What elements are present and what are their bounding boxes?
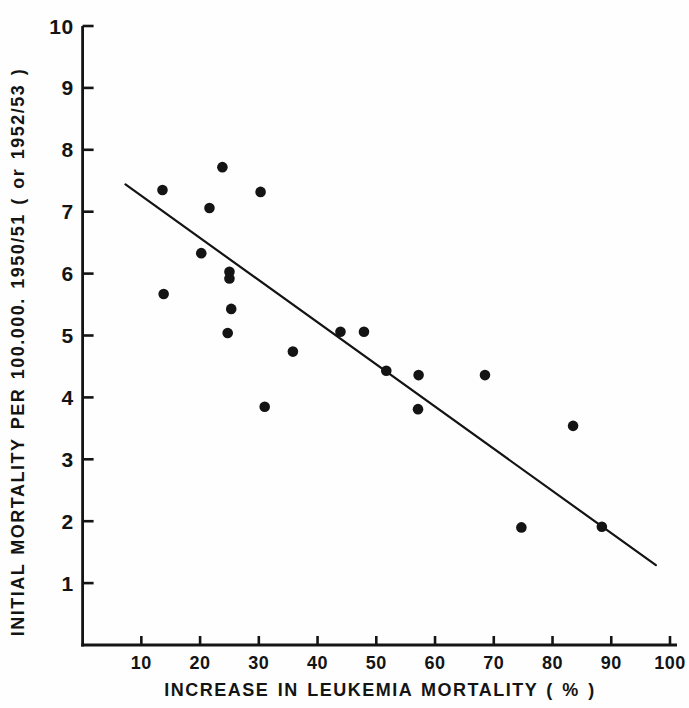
data-point [157, 185, 168, 196]
data-point [226, 304, 237, 315]
y-tick-label: 6 [61, 262, 73, 285]
data-point [413, 404, 424, 415]
regression-line [125, 184, 655, 565]
y-tick-label: 7 [61, 200, 73, 223]
x-tick-label: 80 [542, 653, 563, 673]
data-point [359, 326, 370, 337]
x-tick-label: 100 [654, 653, 686, 673]
trend-line [125, 184, 655, 565]
data-point [255, 187, 266, 198]
scatter-chart: 12345678910102030405060708090100 INCREAS… [0, 0, 689, 708]
data-point [568, 421, 579, 432]
tick-labels: 12345678910102030405060708090100 [49, 15, 686, 674]
y-tick-label: 4 [61, 386, 73, 409]
y-tick-label: 9 [61, 76, 73, 99]
x-tick-label: 20 [190, 653, 211, 673]
scatter-figure: 12345678910102030405060708090100 INCREAS… [0, 0, 689, 708]
x-tick-label: 10 [131, 653, 152, 673]
axis-ticks [83, 26, 670, 645]
data-points [157, 162, 607, 533]
data-point [597, 521, 608, 532]
y-tick-label: 5 [61, 324, 73, 347]
data-point [335, 326, 346, 337]
y-tick-label: 8 [61, 138, 73, 161]
x-tick-label: 30 [248, 653, 269, 673]
data-point [381, 365, 392, 376]
data-point [480, 370, 491, 381]
data-point [259, 401, 270, 412]
data-point [516, 522, 527, 533]
x-tick-label: 70 [483, 653, 504, 673]
y-axis-title: INITIAL MORTALITY PER 100.000. 1950/51 (… [8, 68, 28, 637]
y-tick-label: 10 [49, 15, 73, 38]
x-tick-label: 60 [425, 653, 446, 673]
y-tick-label: 1 [61, 572, 73, 595]
data-point [222, 328, 233, 339]
data-point [288, 346, 299, 357]
y-tick-label: 2 [61, 510, 73, 533]
axes [81, 26, 677, 646]
data-point [158, 289, 169, 300]
data-point [217, 162, 228, 173]
data-point [204, 203, 215, 214]
data-point [196, 248, 207, 259]
data-point [224, 273, 235, 284]
data-point [413, 370, 424, 381]
x-tick-label: 50 [366, 653, 387, 673]
x-tick-label: 90 [601, 653, 622, 673]
y-tick-label: 3 [61, 448, 73, 471]
x-tick-label: 40 [307, 653, 328, 673]
x-axis-title: INCREASE IN LEUKEMIA MORTALITY ( % ) [164, 680, 596, 700]
